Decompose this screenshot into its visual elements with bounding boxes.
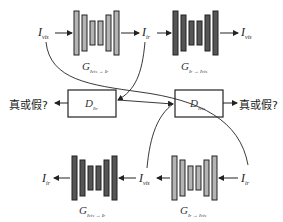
discriminator-ir-label: DIir [85,97,98,111]
generator-bottom-left-dark [72,156,117,200]
bottom-mid-i-vis: Ivis [139,172,150,186]
bottom-input-i-ir: Iir [241,172,249,186]
discriminator-vis-label: DIvis [190,97,205,111]
generator-bottom-right-light [172,156,217,200]
generator-label-ir-to-vis-top: GIr → Ivis [181,61,207,74]
generator-top-left-light [74,11,119,55]
generator-top-right-dark [173,11,218,55]
top-output-i-vis: Ivis [241,26,252,40]
generator-label-vis-to-ir-bottom: GIvis → Ir [79,205,105,218]
real-or-fake-right: 真或假? [239,96,278,112]
top-input-i-vis: Ivis [38,26,49,40]
generator-label-vis-to-ir-top: GIvis → Ir [82,61,108,74]
top-mid-i-ir: Iir [142,26,150,40]
bottom-output-i-ir: Iir [42,172,50,186]
generator-label-ir-to-vis-bottom: GIr → Ivis [180,205,206,218]
real-or-fake-left: 真或假? [9,96,48,112]
